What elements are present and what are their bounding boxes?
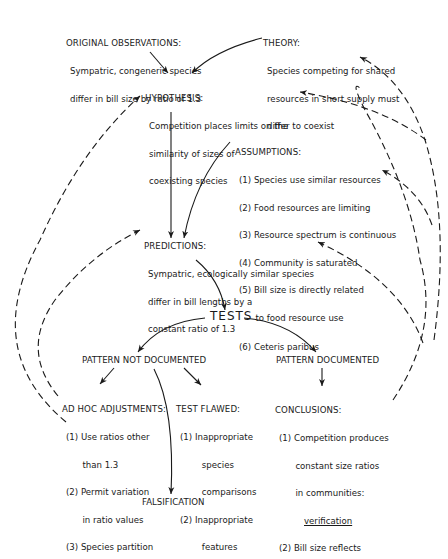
test-flawed-block: TEST FLAWED: (1) Inappropriate species c… [176,387,257,559]
predictions-heading: PREDICTIONS: [144,242,314,251]
arrow-not-documented-to-test-flawed [184,368,201,385]
falsification-label: FALSIFICATION [142,498,204,507]
test-flawed-heading: TEST FLAWED: [176,405,257,414]
conclusion-item: (1) Competition produces [275,434,389,443]
assumptions-heading: ASSUMPTIONS: [235,148,396,157]
conclusions-heading: CONCLUSIONS: [275,406,389,415]
original-observations-heading: ORIGINAL OBSERVATIONS: [66,39,202,48]
theory-line-1: Species competing for shared [263,67,399,76]
assumption-item: (2) Food resources are limiting [235,204,396,213]
arrow-not-documented-to-adhoc [100,368,114,384]
dashed-adhoc-to-predictions [38,230,140,396]
theory-heading: THEORY: [263,39,399,48]
test-flawed-item: species [176,461,257,470]
test-flawed-item: (2) Inappropriate [176,516,257,525]
conclusion-item: in communities: [275,489,389,498]
assumption-item: (6) Ceteris paribus [235,343,396,352]
predictions-line-1: Sympatric, ecologically similar species [144,270,314,279]
predictions-line-3: constant ratio of 1.3 [144,325,314,334]
conclusion-item: constant size ratios [275,462,389,471]
conclusion-item: (2) Bill size reflects [275,544,389,553]
assumption-item: (1) Species use similar resources [235,176,396,185]
ad-hoc-adjustments-block: AD HOC ADJUSTMENTS: (1) Use ratios other… [62,387,166,559]
ad-hoc-item: (1) Use ratios other [62,433,166,442]
verification-line: verification [275,517,389,526]
predictions-line-2: differ in bill lengths by a [144,298,314,307]
tests-label: TESTS [210,309,252,323]
dashed-adhoc-to-hypothesis [15,96,140,422]
ad-hoc-heading: AD HOC ADJUSTMENTS: [62,405,166,414]
pattern-not-documented-label: PATTERN NOT DOCUMENTED [82,356,206,365]
ad-hoc-item: in ratio values [62,516,166,525]
test-flawed-item: features [176,543,257,552]
conclusions-block: CONCLUSIONS: (1) Competition produces co… [275,388,389,559]
arrow-theory-to-hypothesis [192,38,262,73]
original-observations-line-1: Sympatric, congeneric species [66,67,202,76]
test-flawed-item: (1) Inappropriate [176,433,257,442]
ad-hoc-item: than 1.3 [62,461,166,470]
verification-label: verification [304,516,352,526]
pattern-documented-label: PATTERN DOCUMENTED [276,356,379,365]
predictions-block: PREDICTIONS: Sympatric, ecologically sim… [144,224,314,344]
hypothesis-heading: HYPOTHESIS: [145,94,288,103]
ad-hoc-item: (3) Species partition [62,543,166,552]
